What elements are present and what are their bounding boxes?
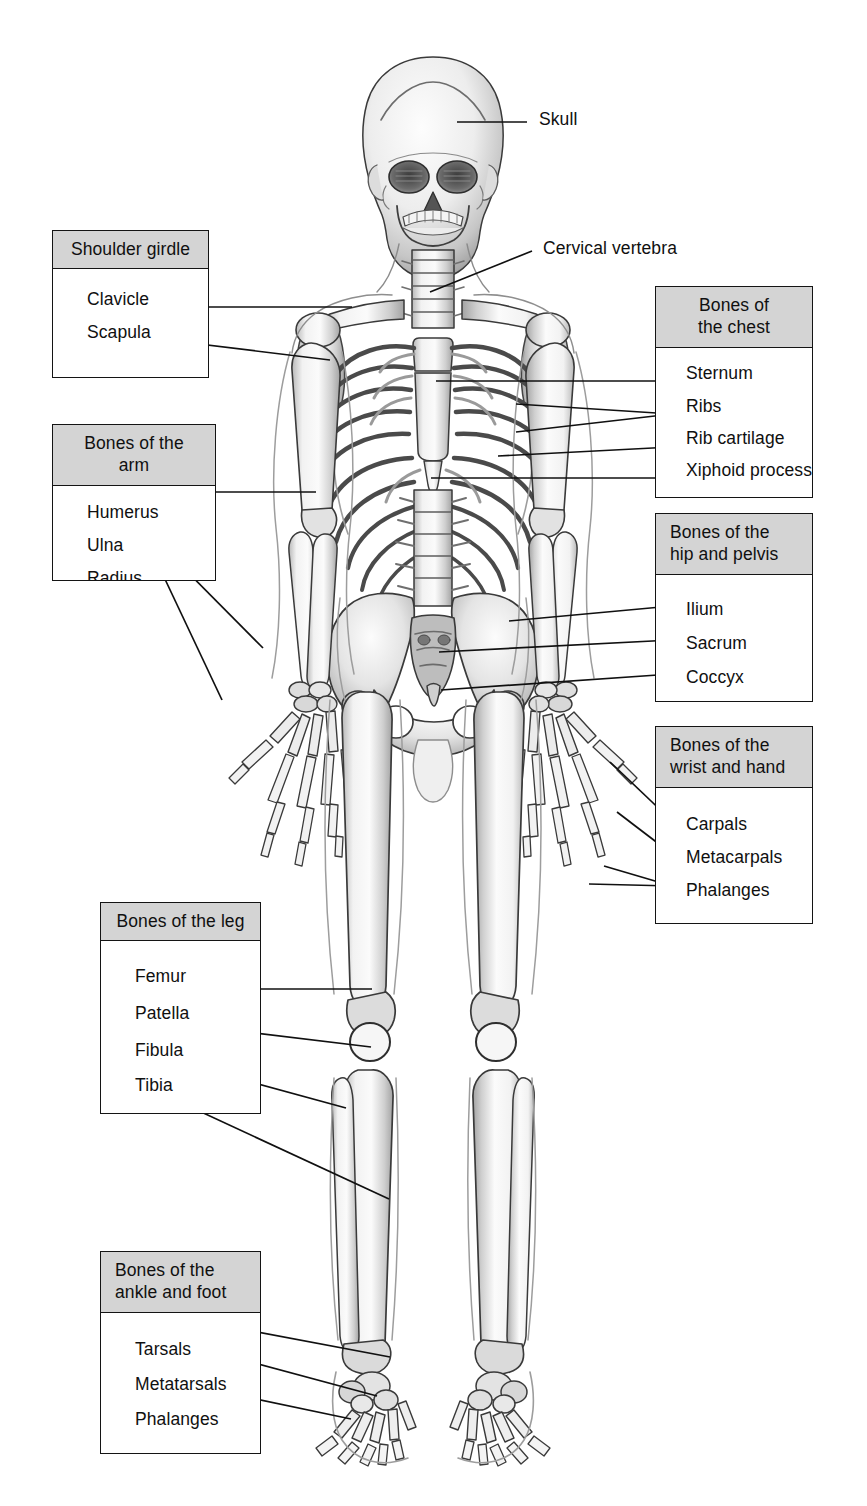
callout-title-bones-of-the-wrist-and-hand: Bones of the wrist and hand: [656, 727, 812, 788]
callout-bones-of-the-wrist-and-hand: Bones of the wrist and hand Carpals Meta…: [655, 726, 813, 924]
lumbar-vertebrae: [396, 490, 470, 606]
leader-sacrum: [439, 640, 672, 652]
callout-title-bones-of-the-arm: Bones of the arm: [53, 425, 215, 486]
cervical-vertebrae: [377, 244, 489, 328]
callout-title-bones-of-the-ankle-and-foot: Bones of the ankle and foot: [101, 1252, 260, 1313]
label-phalanges-foot: Phalanges: [135, 1409, 219, 1430]
callout-title-bones-of-the-leg: Bones of the leg: [101, 903, 260, 941]
label-phalanges-hand: Phalanges: [686, 880, 770, 901]
label-humerus: Humerus: [87, 502, 159, 523]
left-arm-bones: [229, 343, 366, 866]
label-radius: Radius: [87, 568, 142, 581]
label-femur: Femur: [135, 966, 186, 987]
label-metatarsals: Metatarsals: [135, 1374, 227, 1395]
label-xiphoid-process: Xiphoid process: [686, 460, 812, 481]
leader-rib-cartilage: [498, 447, 672, 456]
callout-bones-of-the-chest: Bones of the chest Sternum Ribs Rib cart…: [655, 286, 813, 498]
callout-body-bones-of-the-hip-and-pelvis: Ilium Sacrum Coccyx: [656, 575, 812, 695]
rib-cage: [318, 346, 548, 610]
label-ilium: Ilium: [686, 599, 723, 620]
label-fibula: Fibula: [135, 1040, 183, 1061]
callout-body-bones-of-the-chest: Sternum Ribs Rib cartilage Xiphoid proce…: [656, 348, 812, 491]
label-sternum: Sternum: [686, 363, 753, 384]
clavicle-and-scapula: [292, 295, 574, 409]
label-scapula: Scapula: [87, 322, 151, 343]
callout-title-bones-of-the-hip-and-pelvis: Bones of the hip and pelvis: [656, 514, 812, 575]
callout-shoulder-girdle: Shoulder girdle Clavicle Scapula: [52, 230, 209, 378]
label-coccyx: Coccyx: [686, 667, 744, 688]
leader-ribs: [516, 404, 672, 414]
left-leg-bones: [316, 692, 416, 1466]
leader-ilium: [509, 606, 672, 621]
callout-bones-of-the-leg: Bones of the leg Femur Patella Fibula Ti…: [100, 902, 261, 1114]
label-tarsals: Tarsals: [135, 1339, 191, 1360]
label-patella: Patella: [135, 1003, 189, 1024]
skeleton-diagram-figure: Skull Cervical vertebra Shoulder girdle …: [0, 0, 867, 1506]
callout-title-shoulder-girdle: Shoulder girdle: [53, 231, 208, 269]
label-rib-cartilage: Rib cartilage: [686, 428, 785, 449]
pelvis-bones: [328, 593, 539, 802]
label-ulna: Ulna: [87, 535, 123, 556]
leader-coccyx: [441, 674, 672, 690]
callout-bones-of-the-hip-and-pelvis: Bones of the hip and pelvis Ilium Sacrum…: [655, 513, 813, 702]
callout-title-bones-of-the-chest: Bones of the chest: [656, 287, 812, 348]
callout-body-bones-of-the-arm: Humerus Ulna Radius: [53, 486, 215, 581]
callout-bones-of-the-ankle-and-foot: Bones of the ankle and foot Tarsals Meta…: [100, 1251, 261, 1454]
skull-bone: [363, 57, 503, 279]
callout-body-bones-of-the-leg: Femur Patella Fibula Tibia: [101, 941, 260, 1108]
callout-body-shoulder-girdle: Clavicle Scapula: [53, 269, 208, 372]
label-skull: Skull: [539, 109, 577, 130]
label-metacarpals: Metacarpals: [686, 847, 782, 868]
leader-ribs-2: [516, 414, 672, 432]
label-cervical-vertebra: Cervical vertebra: [543, 238, 677, 259]
callout-body-bones-of-the-ankle-and-foot: Tarsals Metatarsals Phalanges: [101, 1313, 260, 1447]
label-clavicle: Clavicle: [87, 289, 149, 310]
label-carpals: Carpals: [686, 814, 747, 835]
label-sacrum: Sacrum: [686, 633, 747, 654]
right-leg-bones: [450, 692, 550, 1466]
callout-bones-of-the-arm: Bones of the arm Humerus Ulna Radius: [52, 424, 216, 581]
sternum-bone: [413, 338, 453, 493]
label-ribs: Ribs: [686, 396, 721, 417]
callout-body-bones-of-the-wrist-and-hand: Carpals Metacarpals Phalanges: [656, 788, 812, 917]
label-tibia: Tibia: [135, 1075, 173, 1096]
leader-cervical-vertebra: [430, 251, 532, 292]
right-arm-bones: [500, 343, 637, 866]
